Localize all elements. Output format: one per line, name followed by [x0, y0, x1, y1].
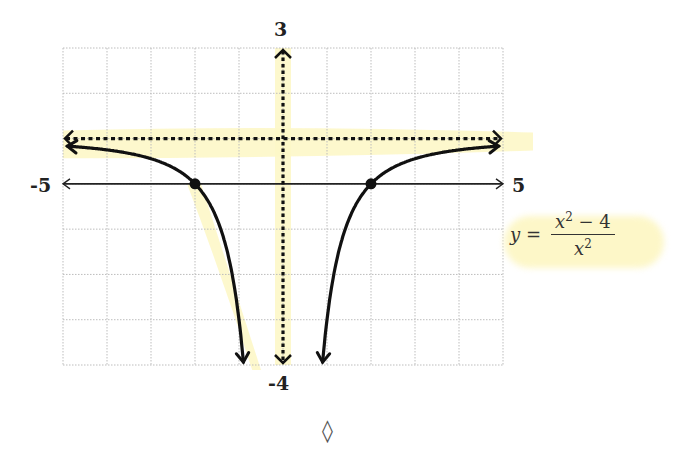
y-min-label: -4: [268, 372, 289, 394]
x-intercept-point: [366, 178, 377, 189]
x-min-label: -5: [30, 174, 51, 196]
diamond-icon: ◊: [322, 418, 333, 443]
den-exponent: 2: [584, 237, 592, 251]
equation-fraction: x2 − 4 x2: [551, 210, 615, 259]
y-max-label: 3: [274, 18, 287, 40]
x-intercept-point: [190, 178, 201, 189]
highlight-left-branch: [187, 184, 261, 370]
graph-figure: 3 -4 -5 5 y = x2 − 4 x2 ◊: [0, 0, 673, 467]
num-exponent: 2: [565, 210, 573, 224]
den-base: x: [574, 238, 584, 259]
highlight-vertical: [275, 48, 291, 365]
equation-numerator: x2 − 4: [551, 210, 615, 235]
num-base: x: [555, 211, 565, 232]
x-max-label: 5: [512, 174, 525, 196]
num-rest: − 4: [573, 211, 611, 232]
curve-right-branch: [323, 146, 499, 362]
equation-denominator: x2: [574, 235, 592, 259]
equation-label: y = x2 − 4 x2: [510, 210, 615, 259]
equation-lhs: y =: [510, 224, 541, 245]
